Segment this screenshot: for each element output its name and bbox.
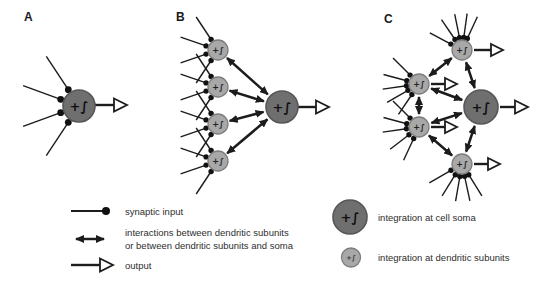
output-arrowhead-icon (491, 44, 503, 56)
input-line (181, 128, 207, 137)
input-line (387, 90, 408, 102)
input-line (404, 139, 414, 161)
input-line (181, 111, 207, 120)
panel-b: B (176, 10, 329, 194)
output-arrowhead-icon (445, 78, 457, 90)
subunit-node-label: +∫ (413, 123, 425, 132)
input-line (393, 101, 410, 118)
subunit-node-label: +∫ (456, 160, 468, 169)
panel-b-interaction-arrows (227, 58, 268, 153)
input-line (23, 113, 61, 127)
interaction-arrow (429, 136, 452, 156)
figure-canvas: A +∫ B (0, 0, 545, 287)
input-line (430, 33, 451, 44)
input-line (399, 95, 412, 115)
panel-b-output-arrow (298, 101, 329, 114)
input-line (181, 37, 207, 46)
legend: synaptic input interactions between dend… (71, 200, 510, 272)
subunit-node-label: +∫ (212, 157, 224, 166)
input-line (442, 20, 456, 40)
legend-synaptic-input-label: synaptic input (125, 206, 183, 217)
soma-node-label: +∫ (341, 210, 360, 225)
input-line (383, 129, 407, 132)
subunit-node-label: +∫ (212, 46, 224, 55)
input-line (429, 170, 451, 183)
legend-soma-integration: +∫ integration at cell soma (333, 200, 476, 234)
legend-dendritic-integration: +∫ integration at dendritic subunits (342, 248, 510, 267)
input-line (456, 177, 460, 202)
legend-soma-label: integration at cell soma (378, 212, 476, 223)
figure-neuron-integration: A +∫ B (0, 0, 545, 287)
subunit-node-label: +∫ (212, 83, 224, 92)
input-line (181, 165, 207, 174)
soma-node-label: +∫ (273, 100, 292, 115)
input-line (469, 175, 482, 196)
input-line (46, 122, 68, 155)
input-line (464, 14, 467, 38)
input-line (181, 54, 207, 63)
input-line (384, 75, 407, 81)
legend-output: output (71, 259, 152, 272)
legend-interactions-label-line1: interactions between dendritic subunits (125, 227, 289, 238)
input-line (383, 86, 407, 89)
legend-interactions: interactions between dendritic subunits … (76, 227, 294, 251)
interaction-arrow (431, 89, 462, 101)
input-line (196, 172, 211, 195)
interaction-arrow (230, 112, 264, 121)
panel-c-label: C (384, 12, 393, 26)
panel-a-output-arrow (95, 99, 127, 112)
input-line (23, 86, 61, 100)
input-line (390, 135, 409, 150)
input-line (181, 91, 207, 100)
interaction-arrow (227, 58, 268, 94)
input-line (181, 74, 207, 83)
output-arrowhead-icon (316, 101, 329, 114)
soma-node-label: +∫ (472, 100, 491, 115)
input-line (465, 176, 470, 201)
legend-dendritic-label: integration at dendritic subunits (378, 252, 510, 263)
interaction-arrow (230, 91, 264, 102)
input-line (455, 14, 460, 38)
interaction-arrow (227, 119, 267, 153)
panel-a: A +∫ (23, 10, 127, 156)
output-arrowhead-icon (488, 158, 500, 170)
output-arrowhead-icon (515, 101, 528, 114)
legend-output-label: output (125, 260, 152, 271)
panel-b-synaptic-inputs (181, 17, 214, 194)
legend-interactions-label-line2: or between dendritic subunits and soma (125, 240, 294, 251)
interaction-arrow (466, 62, 475, 88)
panel-a-label: A (24, 10, 33, 24)
panel-c: C (383, 12, 528, 201)
input-line (467, 17, 477, 39)
panel-b-label: B (176, 10, 185, 24)
interaction-arrow (429, 58, 452, 76)
input-line (181, 148, 207, 157)
soma-node-label: +∫ (70, 99, 89, 114)
input-line (196, 128, 211, 151)
subunit-node-label: +∫ (212, 120, 224, 129)
subunit-node-label: +∫ (413, 80, 425, 89)
input-line (196, 17, 211, 40)
subunit-node-label: +∫ (456, 46, 468, 55)
input-line (196, 54, 211, 77)
output-arrowhead-icon (445, 121, 457, 133)
subunit-node-label: +∫ (346, 254, 355, 262)
legend-synaptic-input: synaptic input (71, 206, 183, 217)
synaptic-input-dot-icon (102, 207, 110, 215)
input-line (442, 175, 455, 196)
input-line (46, 56, 68, 89)
output-arrowhead-icon (100, 259, 113, 272)
input-line (384, 118, 407, 124)
input-line (393, 58, 410, 75)
input-line (196, 91, 211, 114)
interaction-arrow (466, 126, 475, 152)
output-arrowhead-icon (114, 99, 127, 112)
